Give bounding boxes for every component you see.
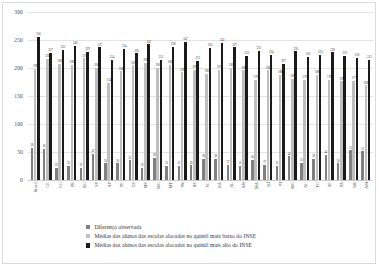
x-axis-label: MA [253, 182, 258, 189]
x-label-cell: RO [78, 181, 90, 211]
bar-value-label: 245 [220, 39, 224, 42]
bar-series-2: 230 [294, 51, 297, 180]
bar-series-0: 36 [251, 160, 254, 180]
x-axis-label: RS [192, 182, 197, 187]
y-tick-label: 200 [14, 65, 23, 71]
bar-group: 38188223 [311, 12, 323, 180]
bar-group: 25196222 [237, 12, 249, 180]
bar-series-2: 215 [368, 60, 371, 180]
bar-groups: 5819825656216227222082332520624022217229… [28, 12, 373, 180]
bar-value-label: 231 [257, 47, 261, 50]
bar-value-label: 242 [146, 41, 150, 44]
bar-group: 27200237 [225, 12, 237, 180]
bar-series-0: 56 [43, 149, 46, 180]
x-axis-label: AC [302, 182, 307, 188]
x-axis-label: Brasil [33, 182, 38, 193]
bar-series-0: 26 [190, 165, 193, 180]
bar-series-1: 174 [107, 83, 110, 180]
bar-series-1: 217 [83, 58, 86, 180]
bar-series-1: 216 [46, 59, 49, 180]
bar-group: 30194234 [115, 12, 127, 180]
x-axis-label: PB [69, 182, 74, 187]
bar-series-2: 224 [270, 55, 273, 180]
bar-value-label: 218 [355, 54, 359, 57]
bar-series-1: 198 [34, 69, 37, 180]
bar-value-label: 238 [171, 43, 175, 46]
y-tick-label: 150 [14, 93, 23, 99]
bar-series-2: 240 [74, 46, 77, 180]
chart-legend: Diferença observadaMédias dos alunos das… [86, 224, 256, 248]
x-label-cell: SP [90, 181, 102, 211]
x-label-cell: RN [237, 181, 249, 211]
bar-series-2: 242 [147, 44, 150, 180]
bar-series-2: 245 [221, 43, 224, 180]
bar-series-0: 31 [300, 163, 303, 180]
bar-series-0: 39 [153, 158, 156, 180]
bar-group: 58198256 [29, 12, 41, 180]
x-axis-label: AP [106, 182, 111, 188]
bar-series-2: 236 [209, 48, 212, 180]
x-axis-label: SE [327, 182, 332, 187]
bar-value-label: 215 [367, 56, 371, 59]
bar-series-0: 25 [178, 166, 181, 180]
x-axis-label: MS [143, 182, 148, 188]
bar-value-label: 214 [110, 56, 114, 59]
bar-series-0: 22 [80, 168, 83, 180]
x-axis-label: RR [351, 182, 356, 188]
x-label-cell: AM [360, 181, 372, 211]
bar-series-2: 215 [160, 60, 163, 180]
bar-series-1: 177 [352, 81, 355, 180]
y-tick-label: 300 [14, 9, 23, 15]
x-label-cell: CE [41, 181, 53, 211]
x-label-cell: MG [152, 181, 164, 211]
bar-value-label: 237 [232, 44, 236, 47]
bar-series-0: 22 [55, 168, 58, 180]
bar-series-1: 206 [71, 65, 74, 180]
bar-series-2: 207 [282, 64, 285, 180]
bar-series-1: 200 [230, 68, 233, 180]
bar-series-1: 181 [291, 79, 294, 180]
bar-series-1: 190 [205, 74, 208, 180]
legend-swatch-icon [86, 243, 90, 247]
x-label-cell: AP [103, 181, 115, 211]
legend-label: Médias dos alunos das escolas alocadas n… [94, 242, 252, 248]
x-axis-label: SC [204, 182, 209, 187]
bar-series-1: 200 [156, 68, 159, 180]
x-axis-label: PI [278, 182, 283, 186]
legend-item[interactable]: Diferença observada [86, 224, 256, 230]
x-label-cell: SC [201, 181, 213, 211]
bar-group: 42181230 [286, 12, 298, 180]
bar-value-label: 207 [281, 60, 285, 63]
x-label-cell: AL [225, 181, 237, 211]
bar-series-0: 27 [263, 165, 266, 180]
legend-item[interactable]: Médias dos alunos das escolas alocadas n… [86, 233, 256, 239]
bar-group: 38197245 [213, 12, 225, 180]
x-axis-label: PR [180, 182, 185, 187]
bar-group: 30174214 [103, 12, 115, 180]
bar-series-2: 229 [86, 52, 89, 180]
x-axis-label: RJ [265, 182, 270, 187]
x-axis-label: AM [363, 182, 368, 189]
bar-series-2: 223 [319, 55, 322, 180]
bar-series-1: 194 [120, 71, 123, 180]
bar-value-label: 215 [159, 56, 163, 59]
bar-series-0: 25 [239, 166, 242, 180]
bar-series-2: 222 [245, 56, 248, 180]
bar-value-label: 233 [61, 46, 65, 49]
legend-item[interactable]: Médias dos alunos das escolas alocadas n… [86, 242, 256, 248]
bar-value-label: 237 [97, 44, 101, 47]
x-label-cell: MT [164, 181, 176, 211]
y-axis-ticks: 050100150200250300 [0, 12, 26, 180]
bar-series-2: 228 [331, 52, 334, 180]
legend-label: Médias dos alunos das escolas alocadas n… [94, 233, 256, 239]
bar-value-label: 223 [318, 51, 322, 54]
bar-series-1: 188 [316, 75, 319, 180]
x-label-cell: TO [311, 181, 323, 211]
bar-value-label: 228 [330, 49, 334, 52]
bar-group: 27196224 [262, 12, 274, 180]
x-axis-label: RN [241, 182, 246, 188]
bar-series-2: 220 [307, 57, 310, 180]
bar-series-1: 206 [169, 65, 172, 180]
bar-series-2: 227 [49, 53, 52, 180]
bar-group: 53177218 [348, 12, 360, 180]
